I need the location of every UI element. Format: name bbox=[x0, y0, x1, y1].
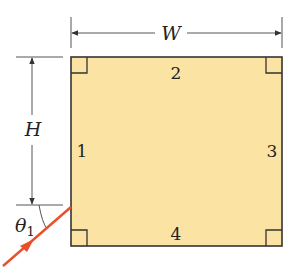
incident-ray bbox=[3, 207, 71, 266]
angle-label: θ1 bbox=[15, 214, 35, 239]
diagram-canvas: W H 1 2 3 4 θ1 bbox=[0, 0, 290, 279]
height-label: H bbox=[24, 118, 42, 140]
rectangle-block bbox=[71, 57, 282, 246]
width-label: W bbox=[161, 22, 182, 44]
side-label-4: 4 bbox=[171, 224, 182, 244]
side-label-3: 3 bbox=[267, 141, 278, 161]
angle-arc bbox=[39, 205, 47, 229]
side-label-2: 2 bbox=[171, 63, 182, 83]
side-label-1: 1 bbox=[77, 141, 88, 161]
